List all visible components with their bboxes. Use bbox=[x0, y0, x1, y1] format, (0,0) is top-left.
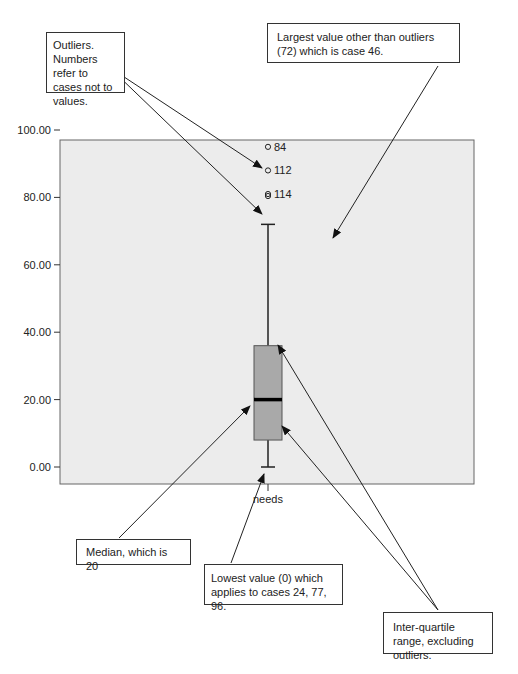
y-axis: 0.0020.0040.0060.0080.00100.00 bbox=[17, 124, 60, 473]
callout-median: Median, which is 20 bbox=[76, 539, 191, 565]
callout-outliers: Outliers. Numbers refer to cases not to … bbox=[46, 32, 125, 93]
y-tick-label: 80.00 bbox=[23, 191, 51, 203]
y-tick-label: 60.00 bbox=[23, 259, 51, 271]
outlier-case-label: 84 bbox=[274, 141, 286, 153]
x-tick-label: needs bbox=[253, 493, 283, 505]
callout-iqr: Inter-quartile range, excluding outliers… bbox=[383, 612, 493, 654]
y-tick-label: 40.00 bbox=[23, 326, 51, 338]
callout-largest-value: Largest value other than outliers (72) w… bbox=[267, 23, 460, 63]
outlier-case-label: 112 bbox=[274, 164, 292, 176]
y-tick-label: 100.00 bbox=[17, 124, 51, 136]
y-tick-label: 20.00 bbox=[23, 394, 51, 406]
outlier-case-label: 114 bbox=[274, 188, 292, 200]
iqr-box bbox=[254, 346, 282, 440]
y-tick-label: 0.00 bbox=[30, 461, 51, 473]
callout-lowest-value: Lowest value (0) which applies to cases … bbox=[204, 564, 343, 605]
